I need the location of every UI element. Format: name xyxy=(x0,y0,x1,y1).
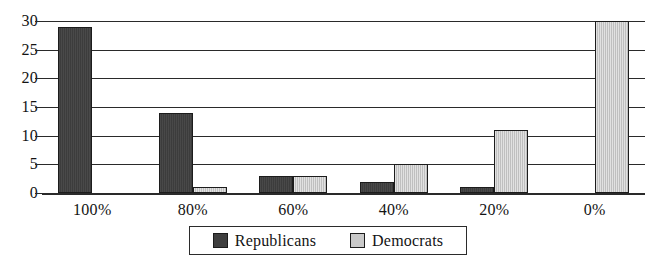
bar-dem xyxy=(494,130,528,193)
legend-swatch-dem xyxy=(350,233,365,248)
bar-dem xyxy=(595,21,629,193)
y-axis-tick-mark xyxy=(35,78,42,79)
y-axis-tick-mark xyxy=(35,21,42,22)
bar-group xyxy=(444,21,545,193)
y-axis-tick-labels: 051015202530 xyxy=(0,0,38,200)
legend-label: Democrats xyxy=(372,233,443,249)
chart-legend: RepublicansDemocrats xyxy=(189,226,467,255)
bar-dem xyxy=(293,176,327,193)
bar-pair xyxy=(42,21,143,193)
bar-pair xyxy=(444,21,545,193)
bar-dem xyxy=(394,164,428,193)
legend-label: Republicans xyxy=(235,233,316,249)
bar-groups xyxy=(42,21,645,193)
x-tick-label: 40% xyxy=(344,198,445,222)
bar-rep xyxy=(159,113,193,193)
bar-dem xyxy=(193,187,227,193)
y-axis-tick-mark xyxy=(35,50,42,51)
bar-group xyxy=(42,21,143,193)
x-tick-label: 100% xyxy=(42,198,143,222)
legend-swatch-rep xyxy=(213,233,228,248)
bar-group xyxy=(243,21,344,193)
y-axis-tick-mark xyxy=(35,136,42,137)
y-axis-tick-mark xyxy=(35,107,42,108)
bar-rep xyxy=(360,182,394,193)
legend-item-rep: Republicans xyxy=(213,233,316,249)
legend-item-dem: Democrats xyxy=(350,233,443,249)
x-axis-tick-labels: 100%80%60%40%20%0% xyxy=(42,198,645,222)
grouped-bar-chart: 051015202530 100%80%60%40%20%0% Republic… xyxy=(0,0,659,269)
bar-rep xyxy=(58,27,92,193)
x-tick-label: 20% xyxy=(444,198,545,222)
y-axis-tick-mark xyxy=(35,193,42,194)
bar-group xyxy=(545,21,646,193)
x-tick-label: 0% xyxy=(545,198,646,222)
axis-baseline xyxy=(42,193,645,195)
bar-pair xyxy=(143,21,244,193)
plot-area xyxy=(42,21,645,193)
bar-pair xyxy=(545,21,646,193)
x-tick-label: 60% xyxy=(243,198,344,222)
bar-rep xyxy=(259,176,293,193)
bar-pair xyxy=(344,21,445,193)
x-tick-label: 80% xyxy=(143,198,244,222)
bar-rep xyxy=(460,187,494,193)
plot-region: 051015202530 xyxy=(0,0,659,200)
bar-pair xyxy=(243,21,344,193)
bar-group xyxy=(344,21,445,193)
bar-group xyxy=(143,21,244,193)
y-axis-tick-mark xyxy=(35,164,42,165)
